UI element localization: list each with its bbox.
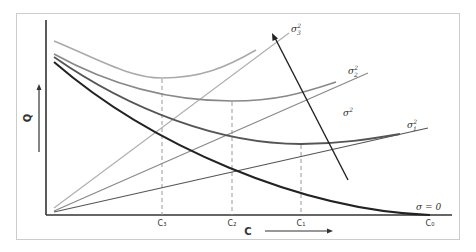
tick-c1: C₁: [297, 219, 306, 228]
tick-c0: C₀: [426, 219, 435, 228]
tick-c3: C₃: [158, 219, 167, 228]
tick-c2: C₂: [228, 219, 237, 228]
label-sigma3: σ23: [291, 22, 301, 36]
label-sigma1: σ21: [407, 118, 417, 132]
label-sigma2: σ22: [348, 64, 358, 78]
label-sigma-zero: σ = 0: [416, 202, 441, 212]
x-axis-label: C: [244, 226, 251, 237]
y-axis-label: Q: [22, 114, 33, 123]
diagram: Q σ23 σ22 σ2 σ21 σ = 0 C₃ C₂ C₁ C₀ C: [0, 0, 476, 252]
